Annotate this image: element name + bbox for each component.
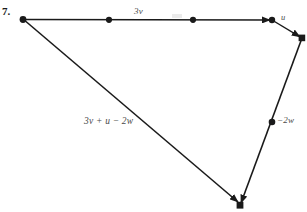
tick-dot-3v-first (106, 17, 112, 23)
tick-dot-3v-second (190, 17, 196, 23)
vector-label-u: u (281, 13, 285, 22)
vector-line-3v (23, 20, 270, 21)
vertex-right-dot (299, 35, 306, 42)
vector-diagram-canvas (0, 0, 307, 212)
vertex-origin-dot (20, 16, 27, 23)
vector-line-resultant (23, 19, 238, 202)
tick-dot-neg2w (269, 119, 276, 126)
item-number-label: 7. (2, 5, 10, 17)
vector-label-resultant: 3v + u − 2w (84, 117, 133, 127)
vertex-top-right-dot (269, 17, 275, 23)
vector-line-u (272, 20, 300, 37)
vector-label-3v: 3v (134, 7, 143, 16)
vector-label-neg2w: −2w (277, 116, 294, 125)
vector-diagram-figure: 7. 3v u −2w 3v + u − 2w (0, 0, 307, 212)
vertex-bottom-dot (237, 202, 244, 209)
scan-smudge (172, 14, 182, 18)
